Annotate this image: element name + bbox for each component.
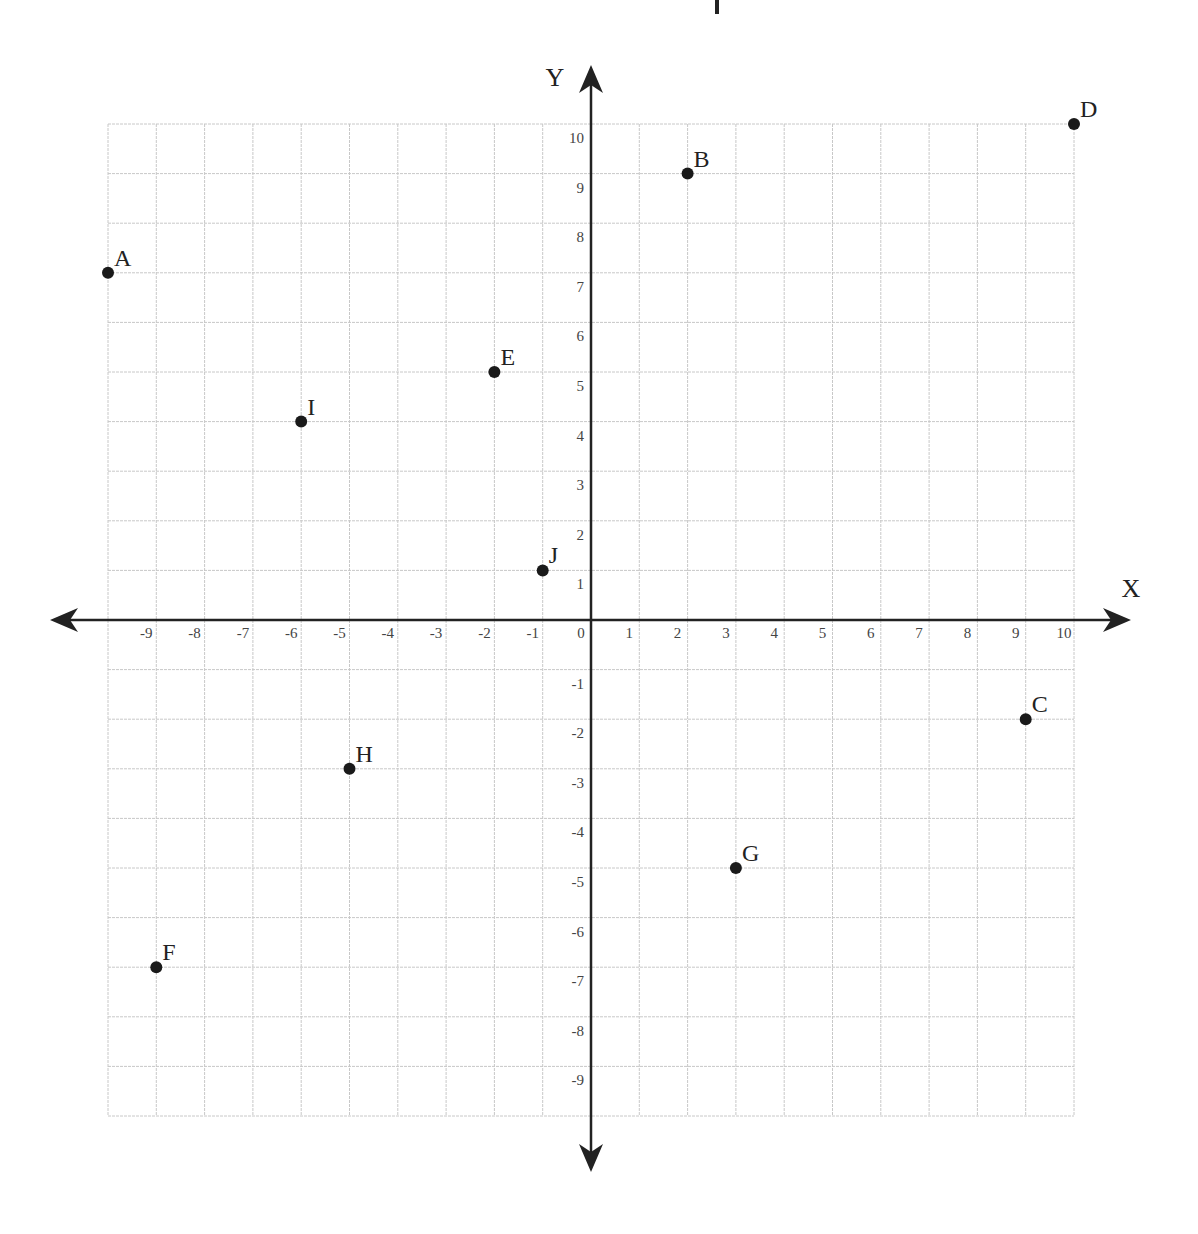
point-label: B bbox=[694, 146, 710, 172]
point-label: D bbox=[1080, 96, 1097, 122]
point-label: A bbox=[114, 245, 132, 271]
x-tick-label: 3 bbox=[722, 625, 730, 641]
x-tick-label: -6 bbox=[285, 625, 298, 641]
point-marker bbox=[150, 961, 162, 973]
y-tick-label: 6 bbox=[577, 328, 585, 344]
point-marker bbox=[730, 862, 742, 874]
x-tick-label: 8 bbox=[964, 625, 972, 641]
y-tick-label: -1 bbox=[572, 676, 585, 692]
y-tick-label: 8 bbox=[577, 229, 585, 245]
x-tick-label: 10 bbox=[1057, 625, 1072, 641]
x-tick-label: -9 bbox=[140, 625, 153, 641]
y-tick-label: -8 bbox=[572, 1023, 585, 1039]
x-tick-label: 2 bbox=[674, 625, 682, 641]
point-g: G bbox=[730, 840, 759, 874]
point-c: C bbox=[1020, 691, 1048, 725]
x-tick-label: 0 bbox=[577, 625, 585, 641]
point-marker bbox=[682, 168, 694, 180]
point-b: B bbox=[682, 146, 710, 180]
point-e: E bbox=[488, 344, 515, 378]
point-label: F bbox=[162, 939, 175, 965]
x-tick-label: -8 bbox=[188, 625, 201, 641]
point-label: G bbox=[742, 840, 759, 866]
y-tick-label: 10 bbox=[569, 130, 584, 146]
x-tick-label: 5 bbox=[819, 625, 827, 641]
y-tick-label: -6 bbox=[572, 924, 585, 940]
point-marker bbox=[344, 763, 356, 775]
y-tick-label: 2 bbox=[577, 527, 585, 543]
x-tick-label: 7 bbox=[915, 625, 923, 641]
point-label: E bbox=[500, 344, 515, 370]
point-a: A bbox=[102, 245, 132, 279]
x-tick-label: 9 bbox=[1012, 625, 1020, 641]
y-tick-label: 5 bbox=[577, 378, 585, 394]
x-tick-label: 6 bbox=[867, 625, 875, 641]
y-tick-label: -4 bbox=[572, 824, 585, 840]
point-label: I bbox=[307, 394, 315, 420]
point-label: H bbox=[356, 741, 373, 767]
x-tick-label: -2 bbox=[478, 625, 491, 641]
y-tick-label: 7 bbox=[577, 279, 585, 295]
y-tick-label: 9 bbox=[577, 180, 585, 196]
point-marker bbox=[537, 564, 549, 576]
x-axis-label: X bbox=[1122, 574, 1141, 603]
point-marker bbox=[1068, 118, 1080, 130]
y-tick-label: -3 bbox=[572, 775, 585, 791]
point-f: F bbox=[150, 939, 175, 973]
y-tick-label: 3 bbox=[577, 477, 585, 493]
y-tick-label: -7 bbox=[572, 973, 585, 989]
point-j: J bbox=[537, 542, 558, 576]
y-tick-label: 4 bbox=[577, 428, 585, 444]
point-h: H bbox=[344, 741, 373, 775]
point-d: D bbox=[1068, 96, 1097, 130]
point-marker bbox=[488, 366, 500, 378]
x-tick-label: -4 bbox=[382, 625, 395, 641]
y-tick-label: -2 bbox=[572, 725, 585, 741]
x-tick-label: 1 bbox=[626, 625, 634, 641]
coordinate-plane: XY -9-8-7-6-5-4-3-2-10123456789101098765… bbox=[0, 0, 1198, 1234]
y-tick-label: -5 bbox=[572, 874, 585, 890]
x-tick-label: -3 bbox=[430, 625, 443, 641]
x-tick-label: 4 bbox=[770, 625, 778, 641]
x-tick-label: -1 bbox=[526, 625, 539, 641]
point-marker bbox=[102, 267, 114, 279]
x-tick-label: -5 bbox=[333, 625, 346, 641]
data-points: ABCDEFGHIJ bbox=[102, 96, 1097, 973]
point-label: J bbox=[549, 542, 558, 568]
x-tick-label: -7 bbox=[237, 625, 250, 641]
y-axis-label: Y bbox=[546, 63, 565, 92]
point-marker bbox=[1020, 713, 1032, 725]
y-tick-label: 1 bbox=[577, 576, 585, 592]
tick-labels: -9-8-7-6-5-4-3-2-10123456789101098765432… bbox=[140, 130, 1071, 1088]
y-tick-label: -9 bbox=[572, 1072, 585, 1088]
point-i: I bbox=[295, 394, 315, 428]
point-marker bbox=[295, 416, 307, 428]
point-label: C bbox=[1032, 691, 1048, 717]
